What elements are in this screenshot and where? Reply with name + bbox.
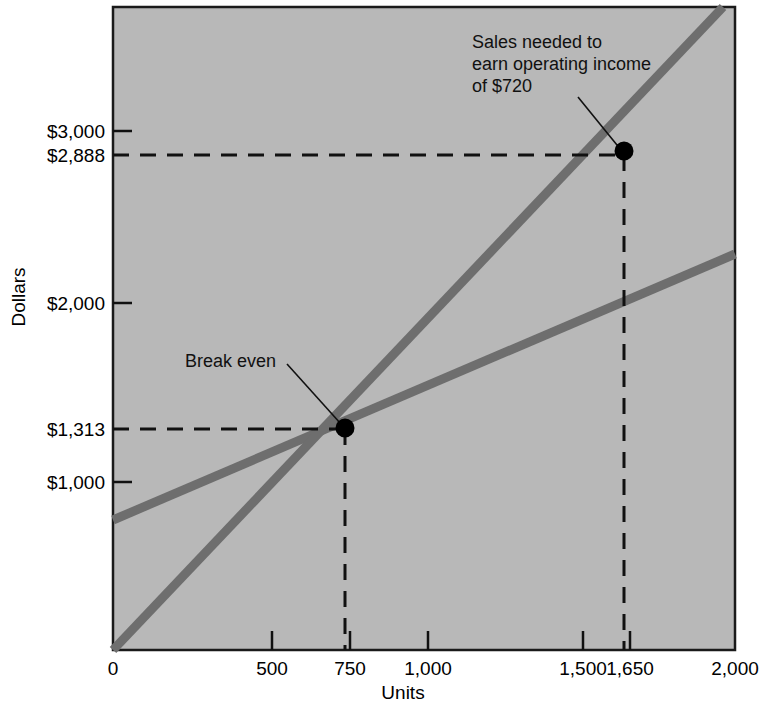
- break-even-annotation: Break even: [185, 350, 276, 372]
- y-tick-label-2888: $2,888: [0, 145, 105, 167]
- x-tick-label-2000: 2,000: [690, 658, 759, 680]
- y-tick-label-1000: $1,000: [0, 472, 105, 494]
- x-tick-label-1000: 1,000: [383, 658, 473, 680]
- x-tick-label-750: 750: [310, 658, 390, 680]
- cvp-break-even-chart: $3,000 $2,888 $2,000 $1,313 $1,000 0 500…: [0, 0, 759, 711]
- y-axis-title: Dollars: [8, 257, 30, 337]
- x-axis-title: Units: [343, 682, 463, 704]
- x-tick-label-0: 0: [83, 658, 143, 680]
- y-tick-label-1313: $1,313: [0, 419, 105, 441]
- x-tick-label-500: 500: [232, 658, 312, 680]
- x-tick-label-1650: 1,650: [585, 658, 675, 680]
- break-even-marker: [336, 419, 355, 438]
- plot-canvas: [0, 0, 759, 711]
- target-income-marker: [615, 142, 634, 161]
- y-tick-label-3000: $3,000: [0, 121, 105, 143]
- target-income-annotation: Sales needed to earn operating income of…: [472, 31, 651, 97]
